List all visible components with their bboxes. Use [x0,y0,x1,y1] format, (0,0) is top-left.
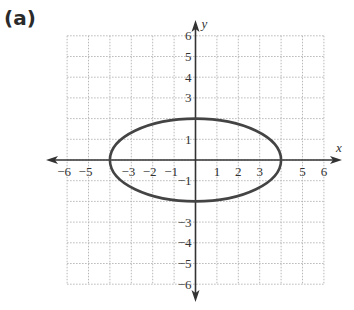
y-tick-label: −4 [178,235,192,250]
y-tick-label: 1 [185,132,192,147]
x-tick-label: −6 [57,164,71,179]
x-tick-label: 3 [256,164,263,179]
y-tick-label: −5 [178,256,192,271]
y-tick-label: 6 [185,28,192,43]
x-tick-label: −2 [143,164,157,179]
x-tick-label: −5 [79,164,93,179]
x-tick-label: −3 [121,164,135,179]
y-tick-label: −6 [178,277,192,292]
x-axis-label: x [335,140,342,155]
tick-labels: −6−5−3−2−11235665431−1−3−4−5−6xy [57,16,342,292]
y-axis-label: y [200,16,208,31]
y-tick-label: 3 [185,90,192,105]
y-tick-label: 5 [185,49,192,64]
x-tick-label: 1 [214,164,221,179]
x-tick-label: 6 [321,164,328,179]
y-tick-label: −1 [178,173,192,188]
coordinate-plane: −6−5−3−2−11235665431−1−3−4−5−6xy [0,0,354,310]
axes [46,20,342,302]
x-tick-label: −1 [164,164,178,179]
x-tick-label: 5 [299,164,306,179]
y-tick-label: 4 [185,70,192,85]
y-tick-label: −3 [178,215,192,230]
x-tick-label: 2 [235,164,242,179]
